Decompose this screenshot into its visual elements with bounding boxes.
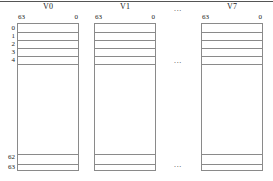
row-divider — [202, 154, 262, 155]
register-v1-box — [94, 23, 156, 171]
row-divider — [95, 32, 155, 33]
row-divider — [18, 48, 78, 49]
register-v1-bit-low-label: 0 — [152, 13, 156, 21]
register-v0-bit-high-label: 63 — [18, 13, 25, 21]
register-v7-box — [201, 23, 263, 171]
row-divider — [18, 56, 78, 57]
row-index-label: 2 — [12, 40, 16, 48]
row-divider — [18, 64, 78, 65]
row-divider — [95, 164, 155, 165]
ellipsis-top: ... — [163, 5, 193, 13]
row-index-label: 4 — [12, 56, 16, 64]
row-divider — [95, 154, 155, 155]
register-v7-bit-low-label: 0 — [259, 13, 263, 21]
register-v1-title: V1 — [94, 2, 156, 11]
row-divider — [202, 40, 262, 41]
row-divider — [202, 164, 262, 165]
row-divider — [202, 32, 262, 33]
row-divider — [95, 48, 155, 49]
register-v0-bit-low-label: 0 — [75, 13, 79, 21]
register-v7-bit-high-label: 63 — [202, 13, 209, 21]
row-divider — [202, 48, 262, 49]
row-divider — [202, 56, 262, 57]
row-index-label: 63 — [8, 163, 15, 171]
row-index-label: 3 — [12, 48, 16, 56]
register-v1-bit-high-label: 63 — [95, 13, 102, 21]
ellipsis-bottom: ... — [163, 161, 193, 169]
register-v7-title: V7 — [201, 2, 263, 11]
row-divider — [18, 154, 78, 155]
register-v0-box — [17, 23, 79, 171]
row-index-label: 0 — [12, 24, 16, 32]
register-v0-title: V0 — [17, 2, 79, 11]
vector-register-file-diagram: 0 1 2 3 4 62 63 V0 63 0 V1 63 0 — [0, 0, 273, 181]
row-index-label: 1 — [12, 32, 16, 40]
row-divider — [18, 40, 78, 41]
row-divider — [202, 64, 262, 65]
row-index-label: 62 — [8, 153, 15, 161]
row-divider — [95, 56, 155, 57]
row-divider — [95, 40, 155, 41]
row-index-column: 0 1 2 3 4 62 63 — [0, 0, 15, 181]
ellipsis-middle: ... — [163, 57, 193, 65]
row-divider — [95, 64, 155, 65]
row-divider — [18, 164, 78, 165]
row-divider — [18, 32, 78, 33]
